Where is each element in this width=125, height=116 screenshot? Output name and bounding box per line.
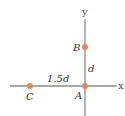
coordinate-diagram: y x d 1.5d A B C (0, 0, 125, 116)
x-axis-label: x (118, 80, 124, 91)
distance-ab-label: d (88, 63, 94, 74)
y-axis-label: y (81, 6, 88, 17)
point-b (82, 44, 88, 50)
point-c-label: C (26, 91, 34, 102)
point-c (27, 83, 33, 89)
point-a-label: A (74, 90, 82, 101)
point-a (82, 83, 88, 89)
point-b-label: B (72, 42, 80, 53)
distance-ac-label: 1.5d (47, 73, 69, 84)
